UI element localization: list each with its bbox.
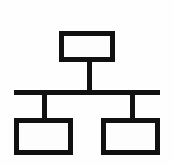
node-root-box — [62, 34, 113, 60]
hierarchy-diagram-svg — [0, 0, 173, 165]
node-child-left-box — [17, 121, 71, 153]
node-child-right-box — [104, 121, 158, 153]
hierarchy-diagram-icon — [0, 0, 173, 165]
